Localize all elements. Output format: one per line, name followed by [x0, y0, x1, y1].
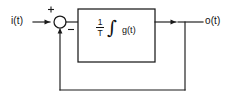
block-output-wire — [155, 20, 176, 25]
output-arrow-head — [171, 20, 177, 25]
plus-sign-icon — [48, 7, 54, 13]
block-diagram-canvas: i(t) o(t) 1 T ∫ g(t) — [0, 0, 248, 100]
output-signal-label: o(t) — [205, 16, 220, 26]
summing-junction-circle — [54, 16, 66, 28]
integrator-formula: 1 T ∫ g(t) — [96, 18, 136, 37]
fraction-numerator: 1 — [97, 18, 104, 27]
input-arrow-head — [45, 20, 51, 25]
input-wire — [33, 20, 50, 25]
integrand-label: g(t) — [122, 25, 136, 35]
fraction-one-over-t: 1 T — [96, 18, 104, 37]
feedback-arrow-head — [58, 28, 63, 34]
integral-icon: ∫ — [107, 18, 117, 37]
fraction-denominator: T — [96, 28, 103, 37]
input-signal-label: i(t) — [11, 16, 23, 26]
